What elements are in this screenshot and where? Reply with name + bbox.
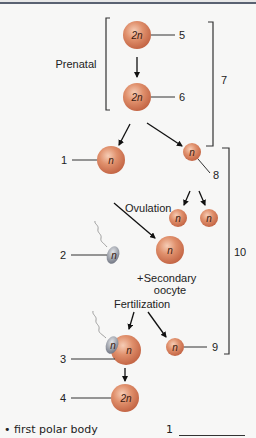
ovulation-label: Ovulation [125, 202, 171, 214]
svg-text:2n: 2n [130, 30, 143, 41]
answer-slot: 1 [166, 423, 245, 436]
secondary-oocyte-label-line1: Secondary [144, 272, 197, 284]
cell-4-zygote: 2n [111, 384, 139, 412]
svg-text:n: n [111, 250, 117, 261]
arrow-split-left-icon [184, 191, 190, 205]
bracket-7 [206, 22, 213, 146]
cell-1: n [97, 146, 125, 174]
svg-text:n: n [172, 342, 178, 353]
cell-split-b: n [200, 209, 218, 227]
cell-secondary-oocyte: n [156, 236, 184, 264]
svg-text:2n: 2n [130, 92, 143, 103]
leader-line-8 [198, 159, 210, 173]
svg-text:n: n [110, 340, 116, 351]
arrow-fertilization-right-icon [148, 312, 166, 337]
arrow-fertilization-left-icon [129, 312, 134, 329]
sperm-2: n [95, 221, 122, 266]
callout-6: 6 [179, 91, 185, 103]
bullet: • [4, 423, 11, 436]
svg-text:n: n [108, 155, 114, 166]
cell-8: n [183, 143, 201, 161]
svg-text:n: n [167, 245, 173, 256]
cell-5: 2n [123, 21, 151, 49]
prenatal-bracket [106, 18, 110, 110]
callout-10: 10 [234, 246, 246, 258]
arrow-right-down-icon [147, 123, 182, 146]
callout-2: 2 [60, 249, 66, 261]
cell-split-a: n [169, 209, 187, 227]
svg-text:n: n [206, 213, 212, 224]
plus-sign: + [137, 272, 143, 284]
arrow-split-right-icon [199, 191, 205, 205]
callout-1: 1 [61, 154, 67, 166]
cell-3-fertilized-egg: n n [93, 311, 141, 365]
svg-text:n: n [126, 345, 132, 356]
secondary-oocyte-label-line2: oocyte [154, 284, 186, 296]
arrow-left-down-icon [119, 124, 130, 145]
svg-text:2n: 2n [119, 393, 132, 404]
svg-text:n: n [189, 147, 195, 158]
prenatal-label: Prenatal [56, 58, 97, 70]
callout-7: 7 [221, 74, 227, 86]
callout-5: 5 [179, 29, 185, 41]
cell-9: n [166, 338, 184, 356]
cell-6: 2n [123, 83, 151, 111]
callout-3: 3 [60, 353, 66, 365]
answer-number: 1 [166, 423, 173, 436]
bracket-10 [222, 148, 229, 354]
callout-8: 8 [213, 169, 219, 181]
fertilization-label: Fertilization [114, 298, 170, 310]
callout-4: 4 [60, 392, 66, 404]
question-term: first polar body [14, 423, 98, 436]
oogenesis-diagram: Prenatal 7 10 2n 5 2n 6 n 1 n 8 [0, 0, 256, 438]
callout-9: 9 [212, 341, 218, 353]
question-item: • first polar body [4, 423, 98, 436]
svg-text:n: n [175, 213, 181, 224]
answer-blank-field[interactable] [179, 424, 245, 436]
